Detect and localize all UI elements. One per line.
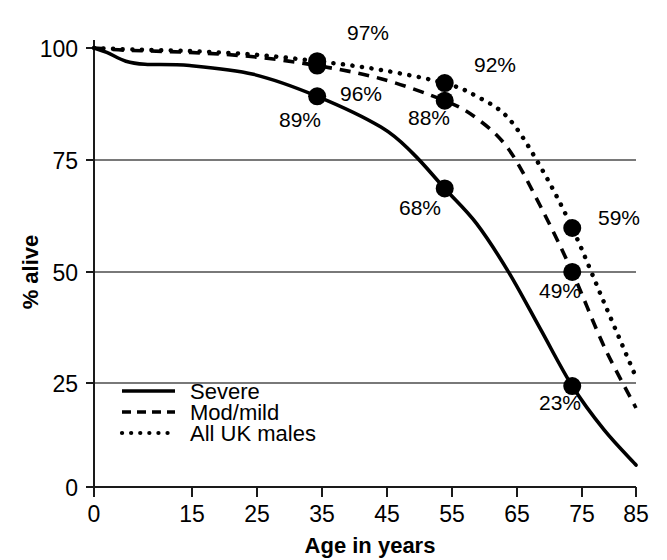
x-tick-label-75: 75 <box>569 501 595 527</box>
data-point-marker <box>436 179 454 197</box>
legend: Severe Mod/mild All UK males <box>122 379 316 446</box>
x-tick-labels: 0 15 25 35 45 55 65 75 85 <box>88 501 649 527</box>
data-point-marker <box>308 87 326 105</box>
point-label-68: 68% <box>399 196 441 219</box>
x-tick-label-15: 15 <box>179 501 205 527</box>
x-tick-label-35: 35 <box>309 501 335 527</box>
point-label-97: 97% <box>347 21 389 44</box>
axes <box>86 40 636 497</box>
x-axis-title: Age in years <box>305 533 436 558</box>
y-tick-label-0: 0 <box>65 475 78 501</box>
y-tick-labels: 100 75 50 25 0 <box>40 36 78 501</box>
y-tick-label-75: 75 <box>52 148 78 174</box>
data-point-marker <box>563 219 581 237</box>
point-label-59: 59% <box>598 206 640 229</box>
point-label-49: 49% <box>539 279 581 302</box>
data-point-marker <box>308 52 326 70</box>
x-tick-label-45: 45 <box>374 501 400 527</box>
data-point-marker <box>436 74 454 92</box>
point-label-88: 88% <box>408 106 450 129</box>
x-tick-label-85: 85 <box>623 501 649 527</box>
survival-chart: 100 75 50 25 0 0 15 25 35 45 55 65 75 85… <box>0 0 667 560</box>
y-tick-label-50: 50 <box>52 260 78 286</box>
x-tick-label-55: 55 <box>439 501 465 527</box>
x-tick-label-0: 0 <box>88 501 101 527</box>
y-tick-label-25: 25 <box>52 371 78 397</box>
gridlines <box>94 160 636 383</box>
point-label-96: 96% <box>340 82 382 105</box>
x-tick-label-25: 25 <box>244 501 270 527</box>
y-axis-title: % alive <box>18 235 43 310</box>
point-value-labels: 97% 96% 89% 92% 88% 68% 59% 49% 23% <box>279 21 640 414</box>
point-label-92: 92% <box>474 53 516 76</box>
point-label-89: 89% <box>279 108 321 131</box>
legend-label-all-uk-males: All UK males <box>190 421 316 446</box>
point-label-23: 23% <box>539 391 581 414</box>
x-tick-label-65: 65 <box>504 501 530 527</box>
chart-canvas: 100 75 50 25 0 0 15 25 35 45 55 65 75 85… <box>0 0 667 560</box>
y-tick-label-100: 100 <box>40 36 78 62</box>
